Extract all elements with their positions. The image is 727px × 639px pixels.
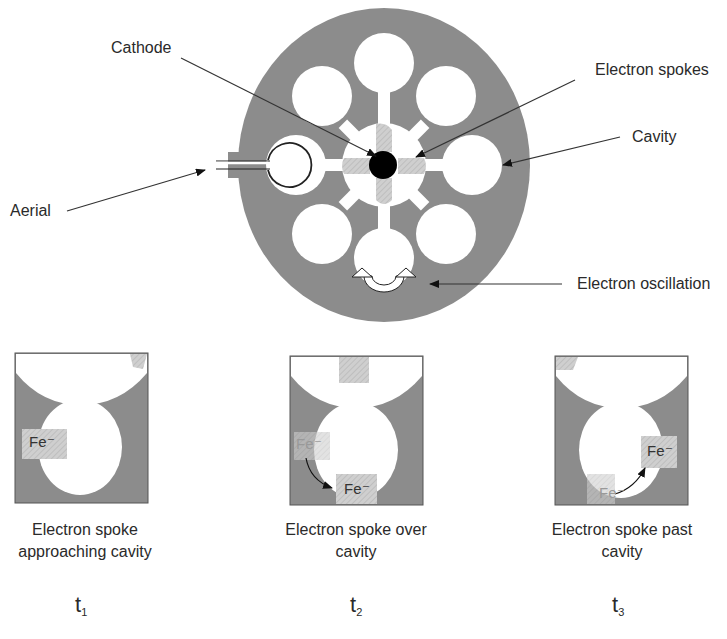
panel2-ghost-charge-label: Fe⁻ (296, 436, 322, 451)
cavity-top (354, 33, 414, 93)
cavity-top-right (416, 66, 476, 126)
panel2-charge-label: Fe⁻ (344, 481, 370, 496)
panel2-caption: Electron spoke over cavity (251, 519, 461, 563)
magnetron-body (216, 8, 530, 322)
label-electron-oscillation: Electron oscillation (577, 276, 710, 292)
panel3-caption: Electron spoke past cavity (530, 519, 714, 563)
panel-t1 (15, 353, 148, 503)
panel1-charge-label: Fe⁻ (29, 434, 55, 449)
cavity-bottom-left (292, 204, 352, 264)
label-cavity: Cavity (632, 129, 676, 145)
aerial-leader (67, 170, 205, 211)
time-label-t2: t2 (350, 592, 362, 618)
panel-t3 (555, 356, 688, 505)
cavity-right (442, 135, 502, 195)
caption-line: Electron spoke past (530, 519, 714, 541)
caption-line: Electron spoke over (251, 519, 461, 541)
cavity-bottom (354, 228, 414, 288)
caption-line: Electron spoke (0, 519, 170, 541)
cavity-top-left (292, 66, 352, 126)
label-electron-spokes: Electron spokes (595, 62, 709, 78)
label-cathode: Cathode (111, 40, 172, 56)
panel3-ghost-charge-label: Fe⁻ (599, 485, 625, 500)
panel3-charge-label: Fe⁻ (647, 443, 673, 458)
panel1-caption: Electron spoke approaching cavity (0, 519, 170, 563)
caption-line: approaching cavity (0, 541, 170, 563)
label-aerial: Aerial (10, 203, 51, 219)
time-label-t3: t3 (612, 592, 624, 618)
time-label-t1: t1 (75, 592, 87, 618)
cavity-bottom-right (416, 204, 476, 264)
caption-line: cavity (251, 541, 461, 563)
caption-line: cavity (530, 541, 714, 563)
